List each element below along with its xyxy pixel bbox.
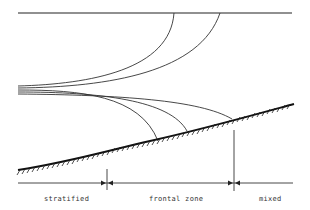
front-diagram bbox=[0, 0, 310, 210]
isopycnal-1 bbox=[18, 13, 174, 86]
isopycnal-2 bbox=[18, 13, 220, 88]
isopycnal-3 bbox=[18, 90, 158, 141]
label-stratified: stratified bbox=[44, 195, 89, 203]
label-frontal-zone: frontal zone bbox=[149, 195, 203, 203]
label-mixed: mixed bbox=[259, 195, 282, 203]
